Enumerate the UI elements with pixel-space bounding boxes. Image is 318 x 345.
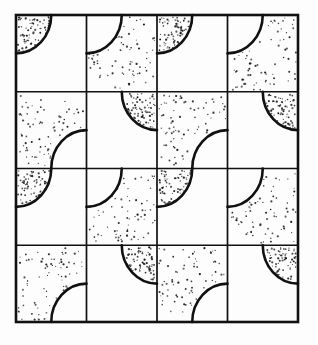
arc-tile-r1c3	[157, 15, 192, 53]
grid-line-layer	[16, 15, 298, 322]
stipple-region-tile-r3c4	[231, 173, 297, 244]
arc-tile-r1c4	[228, 15, 263, 53]
stipple-region-tile-r4c3	[158, 247, 224, 312]
stipple-region-tile-r4c1	[18, 247, 83, 320]
stipple-region-tile-r2c3	[159, 95, 226, 166]
arc-tile-r2c4	[263, 92, 298, 130]
arc-tile-r3c1	[16, 169, 51, 207]
figure-root	[0, 0, 318, 345]
arc-tile-r2c1	[51, 130, 86, 168]
stipple-region-tile-r1c4	[232, 17, 297, 90]
stipple-region-tile-r2c2	[126, 93, 156, 129]
stipple-region-tile-r3c2	[89, 175, 156, 242]
arc-tile-r1c2	[87, 15, 122, 53]
arc-tile-r4c3	[192, 284, 227, 322]
stipple-region-tile-r2c1	[19, 95, 85, 166]
arc-tile-r2c3	[192, 130, 227, 168]
arc-tile-r3c2	[87, 169, 122, 207]
stipple-region-tile-r2c4	[266, 94, 296, 129]
truchet-tiling-figure	[0, 0, 318, 345]
arc-tile-r4c1	[51, 284, 86, 322]
arc-tile-r2c2	[122, 92, 157, 130]
